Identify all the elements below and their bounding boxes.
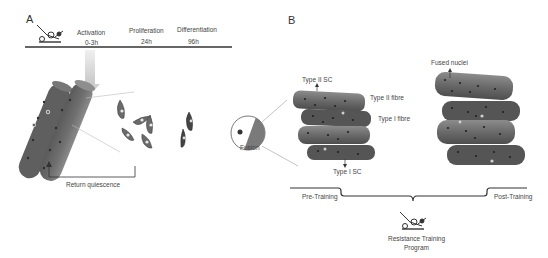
type1-fibre-label: Type I fibre [378, 116, 410, 123]
pre-training-label: Pre-Training [302, 194, 338, 201]
satellite-cells-differentiation [181, 112, 193, 147]
resistance-training-machine-icon [37, 25, 63, 42]
time-activation: 0-3h [85, 40, 98, 47]
panel-a-label: A [26, 13, 33, 25]
type1-sc-label: Type I SC [333, 169, 362, 176]
fusion-inset [231, 100, 298, 166]
fused-nuclei-label: Fused nuclei [431, 60, 468, 67]
type2-fibre-label: Type II fibre [370, 95, 404, 102]
return-quiescence-label: Return quiescence [66, 182, 120, 189]
muscle-fibres-a [15, 78, 96, 185]
stage-proliferation: Proliferation [129, 28, 164, 35]
post-training-label: Post-Training [494, 194, 532, 201]
stage-differentiation: Differentiation [177, 27, 217, 34]
time-proliferation: 24h [141, 39, 152, 46]
fibre-stack-post [434, 71, 525, 165]
stage-activation: Activation [77, 30, 105, 37]
type2-sc-label: Type II SC [302, 77, 332, 84]
resistance-training-machine-icon-b [400, 212, 426, 229]
panel-b-label: B [288, 14, 295, 26]
fusion-label: Fusion [240, 145, 260, 152]
program-label-line1: Resistance Training [388, 236, 445, 243]
diagram-canvas [0, 0, 548, 258]
fibre-stack-pre [293, 90, 375, 160]
program-label-line2: Program [404, 245, 429, 252]
time-differentiation: 96h [188, 39, 199, 46]
